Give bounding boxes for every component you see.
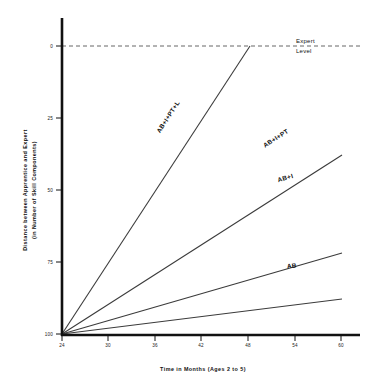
series-label-ab: AB [286, 261, 297, 269]
y-axis-title-line1: Distance between Apprentice and Expert [22, 129, 28, 250]
y-axis-title-line2: (in Number of Skill Components) [31, 141, 37, 239]
x-tick-label-36: 36 [152, 343, 158, 348]
y-tick-label-0: 0 [50, 44, 53, 49]
x-tick-label-24: 24 [59, 343, 65, 348]
expert-level-label-line2: Level [296, 48, 312, 54]
y-tick-label-50: 50 [47, 188, 53, 193]
series-line-ab-i-pt-l [62, 46, 250, 334]
y-tick-label-25: 25 [47, 116, 53, 121]
x-tick-label-60: 60 [338, 343, 344, 348]
chart-container: 0 25 50 75 100 24 30 36 42 48 54 60 Time… [0, 0, 374, 381]
y-tick-label-75: 75 [47, 260, 53, 265]
line-chart-plot: 0 25 50 75 100 24 30 36 42 48 54 60 Time… [0, 0, 374, 381]
x-axis-title: Time in Months (Ages 2 to 5) [160, 366, 246, 372]
x-tick-label-48: 48 [245, 343, 251, 348]
series-label-ab-i: AB+I [277, 172, 294, 183]
expert-level-label-line1: Expert [296, 38, 315, 44]
x-tick-label-42: 42 [198, 343, 204, 348]
series-label-ab-i-pt-l: AB+I+PT+L [155, 99, 181, 134]
series-line-ab-i-pt [62, 155, 342, 334]
x-tick-label-54: 54 [292, 343, 298, 348]
series-line-ab-i [62, 253, 342, 334]
series-label-ab-i-pt: AB+I+PT [262, 127, 290, 148]
y-tick-label-100: 100 [45, 332, 54, 337]
x-tick-label-30: 30 [105, 343, 111, 348]
series-line-ab [62, 299, 342, 334]
